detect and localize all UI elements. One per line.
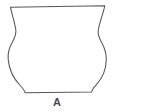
vessel-outline-path [8,6,106,93]
vessel-figure: A [0,0,154,112]
figure-label: A [0,96,114,109]
